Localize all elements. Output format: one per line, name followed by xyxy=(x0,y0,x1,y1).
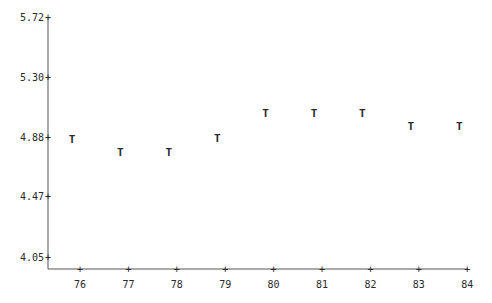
y-tick-label: 4.47 xyxy=(20,191,44,202)
x-tick-mark: + xyxy=(174,264,180,275)
chart-canvas: 5.72+5.30+4.88+4.47+4.05+ +76+77+78+79+8… xyxy=(0,0,492,303)
y-tick-label: 5.72 xyxy=(20,12,44,23)
x-tick-mark: + xyxy=(125,264,131,275)
data-point-marker: T xyxy=(117,146,124,159)
x-tick-label: 79 xyxy=(219,279,231,290)
data-point-marker: T xyxy=(214,132,221,145)
x-tick-mark: + xyxy=(222,264,228,275)
x-tick-mark: + xyxy=(416,264,422,275)
y-tick-mark: + xyxy=(45,12,51,23)
x-tick-mark: + xyxy=(77,264,83,275)
x-tick-label: 80 xyxy=(268,279,280,290)
y-axis-ticks: 5.72+5.30+4.88+4.47+4.05+ xyxy=(20,12,51,263)
x-tick-mark: + xyxy=(271,264,277,275)
x-axis-ticks: +76+77+78+79+80+81+82+83+84 xyxy=(74,264,473,291)
x-tick-label: 77 xyxy=(122,279,134,290)
x-tick-mark: + xyxy=(464,264,470,275)
data-point-marker: T xyxy=(262,107,269,120)
data-point-marker: T xyxy=(311,107,318,120)
x-tick-label: 84 xyxy=(461,279,473,290)
y-tick-mark: + xyxy=(45,252,51,263)
data-point-marker: T xyxy=(456,120,463,133)
x-tick-label: 81 xyxy=(316,279,328,290)
x-tick-label: 78 xyxy=(171,279,183,290)
data-point-marker: T xyxy=(407,120,414,133)
data-point-marker: T xyxy=(165,146,172,159)
x-tick-label: 83 xyxy=(413,279,425,290)
y-tick-mark: + xyxy=(45,72,51,83)
x-tick-mark: + xyxy=(367,264,373,275)
y-tick-label: 5.30 xyxy=(20,72,44,83)
data-markers: TTTTTTTTT xyxy=(69,107,463,159)
y-tick-mark: + xyxy=(45,132,51,143)
x-tick-mark: + xyxy=(319,264,325,275)
x-tick-label: 76 xyxy=(74,279,86,290)
data-point-marker: T xyxy=(359,107,366,120)
y-tick-mark: + xyxy=(45,191,51,202)
x-tick-label: 82 xyxy=(364,279,376,290)
data-point-marker: T xyxy=(69,133,76,146)
y-tick-label: 4.05 xyxy=(20,252,44,263)
y-tick-label: 4.88 xyxy=(20,132,44,143)
